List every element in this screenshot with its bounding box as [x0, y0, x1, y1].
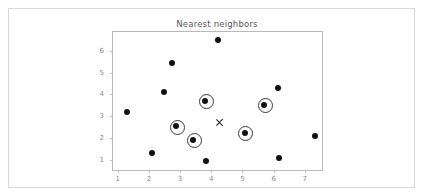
y-axis-tick: [110, 138, 113, 139]
data-point-marker: [203, 158, 209, 164]
data-point-marker: [169, 60, 175, 66]
x-axis-tick: [180, 170, 181, 173]
y-axis-tick: [110, 73, 113, 74]
y-axis-tick-label: 5: [100, 69, 104, 77]
figure-panel: Nearest neighbors 1234567123456: [8, 8, 415, 188]
data-point-marker: [312, 133, 318, 139]
data-point-marker: [149, 150, 155, 156]
x-axis-tick: [242, 170, 243, 173]
x-axis-tick: [305, 170, 306, 173]
x-axis-tick-label: 6: [271, 175, 275, 183]
x-axis-tick: [149, 170, 150, 173]
y-axis-tick-label: 3: [100, 112, 104, 120]
y-axis-tick: [110, 160, 113, 161]
data-point-marker: [161, 89, 167, 95]
data-point-marker: [276, 155, 282, 161]
y-axis-tick-label: 6: [100, 47, 104, 55]
data-point-marker: [215, 37, 221, 43]
x-axis-tick-label: 7: [303, 175, 307, 183]
x-axis-tick: [118, 170, 119, 173]
x-axis-tick: [274, 170, 275, 173]
x-axis-tick-label: 2: [147, 175, 151, 183]
data-point-marker: [124, 109, 130, 115]
data-point-marker: [202, 98, 208, 104]
x-axis-tick-label: 1: [115, 175, 119, 183]
data-point-marker: [275, 85, 281, 91]
x-axis-tick: [211, 170, 212, 173]
x-axis-tick-label: 5: [240, 175, 244, 183]
data-point-marker: [242, 130, 248, 136]
x-axis-tick-label: 3: [178, 175, 182, 183]
query-point-marker: [215, 118, 224, 127]
y-axis-tick: [110, 51, 113, 52]
data-point-marker: [190, 137, 196, 143]
y-axis-tick-label: 2: [100, 134, 104, 142]
y-axis-tick: [110, 94, 113, 95]
y-axis-tick-label: 1: [100, 156, 104, 164]
plot-axes: 1234567123456: [112, 31, 323, 171]
x-axis-tick-label: 4: [209, 175, 213, 183]
page-title: Nearest neighbors: [112, 19, 322, 29]
y-axis-tick-label: 4: [100, 90, 104, 98]
y-axis-tick: [110, 116, 113, 117]
scatter-canvas: 1234567123456: [113, 32, 322, 170]
